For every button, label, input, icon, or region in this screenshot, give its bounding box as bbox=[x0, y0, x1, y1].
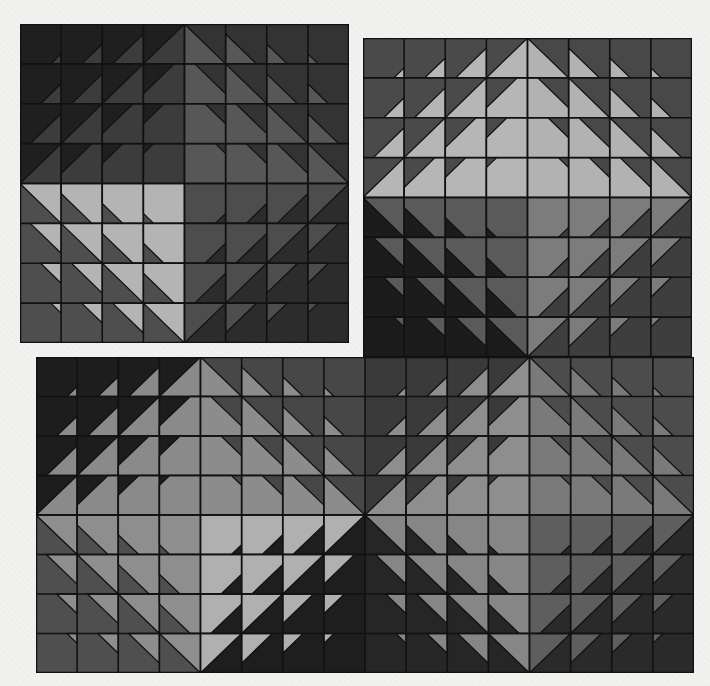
triangle-shape bbox=[143, 184, 184, 224]
panel-top-left bbox=[20, 24, 349, 343]
triangle-shape bbox=[488, 476, 529, 516]
quilt-cell bbox=[36, 634, 77, 674]
quilt-cell bbox=[651, 38, 692, 78]
triangle-shape bbox=[528, 158, 569, 198]
triangle-shape bbox=[528, 198, 569, 238]
quilt-cell bbox=[365, 357, 406, 397]
quilt-cell bbox=[653, 357, 694, 397]
quilt-cell bbox=[36, 357, 77, 397]
triangle-shape bbox=[185, 184, 226, 224]
quilt-cell bbox=[308, 24, 349, 64]
quilt-cell bbox=[308, 303, 349, 343]
quilt-cell bbox=[324, 634, 365, 674]
triangle-shape bbox=[143, 144, 184, 184]
quilt-cell bbox=[20, 303, 61, 343]
panel-bottom bbox=[36, 357, 694, 673]
triangle-shape bbox=[486, 198, 527, 238]
triangle-shape bbox=[159, 515, 200, 555]
quilt-cell bbox=[365, 634, 406, 674]
triangle-shape bbox=[530, 515, 571, 555]
triangle-shape bbox=[201, 515, 242, 555]
panel-top-right bbox=[363, 38, 692, 357]
quilt-cell bbox=[363, 317, 404, 357]
quilt-cell bbox=[324, 357, 365, 397]
quilt-cell bbox=[653, 634, 694, 674]
quilt-cell bbox=[363, 38, 404, 78]
quilt-cell bbox=[20, 24, 61, 64]
triangle-shape bbox=[201, 476, 242, 516]
quilt-cell bbox=[651, 317, 692, 357]
triangle-shape bbox=[530, 476, 571, 516]
triangle-shape bbox=[488, 515, 529, 555]
triangle-shape bbox=[159, 476, 200, 516]
triangle-shape bbox=[185, 144, 226, 184]
triangle-shape bbox=[486, 158, 527, 198]
